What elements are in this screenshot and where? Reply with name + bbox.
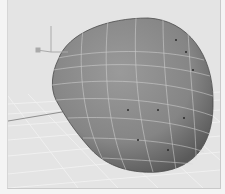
3d-viewport[interactable] <box>7 0 221 189</box>
move-manipulator-icon[interactable] <box>36 26 68 52</box>
viewport-canvas[interactable] <box>8 0 220 188</box>
mesh-object[interactable] <box>52 18 213 172</box>
grid-axis-line <box>8 111 68 121</box>
